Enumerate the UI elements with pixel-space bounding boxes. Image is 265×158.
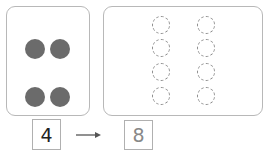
dashed-ring [152,63,170,81]
input-set-panel [6,6,90,116]
dashed-ring [152,87,170,105]
input-count-value: 4 [40,124,52,146]
output-count-value: 8 [132,124,144,146]
filled-dot [25,87,45,107]
filled-dot [25,39,45,59]
dashed-ring [197,39,215,57]
output-set-panel [103,6,263,116]
dashed-ring [152,39,170,57]
filled-dot [50,39,70,59]
right-arrow-icon [76,129,102,141]
dashed-ring [197,16,215,34]
input-count-box: 4 [32,119,61,150]
output-count-box: 8 [124,120,153,150]
dashed-ring [197,63,215,81]
filled-dot [50,87,70,107]
dashed-ring [152,16,170,34]
dashed-ring [197,87,215,105]
